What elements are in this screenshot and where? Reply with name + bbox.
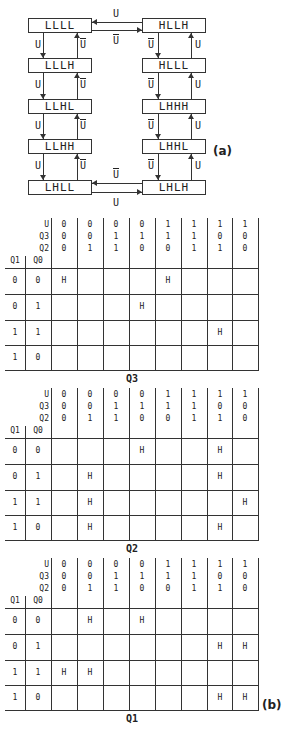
row-label-q1: 1 xyxy=(5,328,25,338)
column-variable-label: U xyxy=(28,390,49,400)
grid-line xyxy=(5,660,259,661)
column-header-value: 0 xyxy=(51,414,77,424)
transition-line xyxy=(92,192,142,193)
arrow-up-icon xyxy=(188,33,194,38)
kmap-title: Q2 xyxy=(112,543,152,554)
edge-label-u-bar: U xyxy=(113,36,119,46)
edge-label-u: U xyxy=(35,121,41,131)
column-header-value: 0 xyxy=(232,584,258,594)
state-box-lhhh: LHHH xyxy=(142,99,206,114)
column-header-value: 0 xyxy=(51,572,77,582)
arrow-down-icon xyxy=(40,134,46,139)
state-box-hlll: HLLL xyxy=(142,58,206,73)
column-header-value: 0 xyxy=(207,232,233,242)
row-variable-label: Q0 xyxy=(28,256,48,266)
column-header-value: 0 xyxy=(155,244,181,254)
kmap-cell: H xyxy=(77,668,103,678)
row-label-q1: 1 xyxy=(5,353,25,363)
row-variable-label: Q0 xyxy=(28,426,48,436)
grid-line xyxy=(5,540,259,541)
arrow-left-icon xyxy=(92,19,97,25)
kmap-q1: U00001111Q300111100Q201100110Q1Q000HH01H… xyxy=(0,554,289,724)
kmap-cell: H xyxy=(207,446,233,456)
arrow-down-icon xyxy=(155,94,161,99)
column-header-value: 0 xyxy=(155,584,181,594)
column-header-value: 0 xyxy=(77,390,103,400)
column-header-value: 1 xyxy=(181,560,207,570)
row-label-q1: 1 xyxy=(5,693,25,703)
column-header-value: 0 xyxy=(232,232,258,242)
column-header-value: 1 xyxy=(103,572,129,582)
column-header-value: 0 xyxy=(51,390,77,400)
row-label-q1: 0 xyxy=(5,642,25,652)
grid-line xyxy=(5,464,259,465)
column-header-value: 0 xyxy=(51,560,77,570)
grid-line xyxy=(25,596,26,710)
grid-line xyxy=(5,490,259,491)
state-box-hllh: HLLH xyxy=(142,18,206,33)
kmap-cell: H xyxy=(155,276,181,286)
column-header-value: 1 xyxy=(103,232,129,242)
edge-label-u: U xyxy=(195,161,201,171)
kmap-title: Q1 xyxy=(112,713,152,724)
kmap-cell: H xyxy=(77,616,103,626)
column-header-value: 1 xyxy=(77,244,103,254)
column-header-value: 1 xyxy=(207,414,233,424)
row-label-q0: 0 xyxy=(28,693,48,703)
column-header-value: 1 xyxy=(181,584,207,594)
kmap-cell: H xyxy=(129,616,155,626)
column-header-value: 0 xyxy=(207,402,233,412)
kmap-cell: H xyxy=(232,693,258,703)
transition-line xyxy=(92,30,142,31)
grid-line xyxy=(5,634,259,635)
grid-line xyxy=(5,710,259,711)
column-variable-label: U xyxy=(28,560,49,570)
column-header-value: 1 xyxy=(155,232,181,242)
kmap-cell: H xyxy=(77,498,103,508)
column-header-value: 1 xyxy=(207,220,233,230)
state-box-llll: LLLL xyxy=(28,18,92,33)
grid-line xyxy=(5,294,259,295)
grid-line xyxy=(5,608,259,609)
column-header-value: 0 xyxy=(103,560,129,570)
column-header-value: 1 xyxy=(155,390,181,400)
kmap-cell: H xyxy=(51,276,77,286)
row-label-q0: 1 xyxy=(28,472,48,482)
edge-label-u: U xyxy=(113,9,119,19)
arrow-down-icon xyxy=(155,134,161,139)
column-header-value: 1 xyxy=(129,572,155,582)
arrow-up-icon xyxy=(188,73,194,78)
row-label-q0: 0 xyxy=(28,616,48,626)
edge-label-u: U xyxy=(195,40,201,50)
column-header-value: 0 xyxy=(207,572,233,582)
state-box-lhlh: LHLH xyxy=(142,180,206,195)
arrow-down-icon xyxy=(40,53,46,58)
column-header-value: 1 xyxy=(207,560,233,570)
row-variable-label: Q1 xyxy=(5,596,25,606)
column-header-value: 0 xyxy=(232,402,258,412)
column-header-value: 1 xyxy=(232,220,258,230)
column-header-value: 1 xyxy=(207,390,233,400)
column-header-value: 1 xyxy=(77,584,103,594)
edge-label-u-bar: U xyxy=(148,121,154,131)
column-header-value: 1 xyxy=(103,414,129,424)
column-header-value: 1 xyxy=(155,572,181,582)
grid-line xyxy=(5,320,259,321)
column-header-value: 0 xyxy=(232,572,258,582)
edge-label-u-bar: U xyxy=(148,80,154,90)
kmap-cell: H xyxy=(207,642,233,652)
kmap-cell: H xyxy=(207,523,233,533)
edge-label-u: U xyxy=(35,40,41,50)
edge-label-u-bar: U xyxy=(148,161,154,171)
column-header-value: 1 xyxy=(155,220,181,230)
column-header-value: 1 xyxy=(129,402,155,412)
kmap-q3: U00001111Q300111100Q201100110Q1Q000HH01H… xyxy=(0,214,289,384)
kmap-cell: H xyxy=(129,302,155,312)
kmap-cell: H xyxy=(77,472,103,482)
column-variable-label: U xyxy=(28,220,49,230)
column-header-value: 0 xyxy=(103,220,129,230)
arrow-right-icon xyxy=(137,27,142,33)
row-label-q0: 0 xyxy=(28,446,48,456)
grid-line xyxy=(5,345,259,346)
column-header-value: 1 xyxy=(207,244,233,254)
